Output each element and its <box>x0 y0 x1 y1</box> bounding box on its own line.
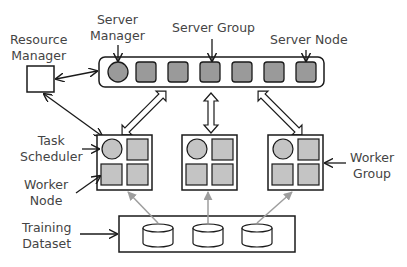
dataset-cylinder <box>143 224 173 247</box>
server-manager-label: ServerManager <box>90 12 145 44</box>
dataset-cylinder <box>242 224 272 247</box>
server-node <box>296 62 316 82</box>
server-node <box>264 62 284 82</box>
server-node <box>168 62 188 82</box>
server-node <box>200 62 220 82</box>
worker-group-label: WorkerGroup <box>350 150 394 182</box>
worker-group-1 <box>97 135 152 190</box>
server-node-label: Server Node <box>270 32 348 48</box>
worker-group-3 <box>268 135 323 190</box>
double-arrow-right <box>253 86 307 140</box>
task-scheduler-label: TaskScheduler <box>20 133 83 165</box>
resource-manager-label: ResourceManager <box>10 32 67 64</box>
worker-group-2 <box>182 135 237 190</box>
training-dataset-label: TrainingDataset <box>22 220 71 252</box>
worker-node-label: WorkerNode <box>24 177 68 209</box>
server-manager-node <box>108 62 128 82</box>
resource-manager-box <box>27 66 54 92</box>
double-arrow-left <box>117 86 171 140</box>
dataset-cylinder <box>193 224 223 247</box>
server-group-label: Server Group <box>172 20 255 36</box>
server-node <box>232 62 252 82</box>
double-arrow-middle <box>204 93 218 133</box>
server-node <box>136 62 156 82</box>
